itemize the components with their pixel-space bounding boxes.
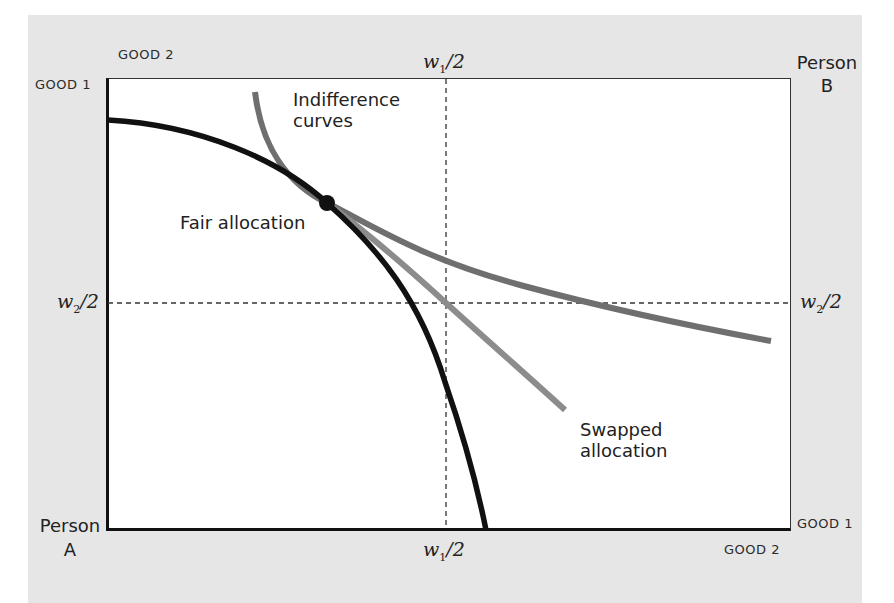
diagram-curves [0,0,894,603]
indifference-curves-label: Indifference curves [293,90,400,131]
w2-var: w [57,290,73,312]
good1-top-left-label: GOOD 1 [35,78,91,91]
person-a-label: Person A [34,517,106,559]
indifference-line1: Indifference [293,90,400,111]
fair-allocation-point [319,195,335,211]
w2-rest: /2 [80,290,99,312]
w1-var: w [423,50,439,72]
w2-var: w [800,290,816,312]
person-b-label: Person B [793,54,861,95]
person-a-indifference-curve [108,120,486,530]
indifference-line2: curves [293,111,400,132]
person-a-line1: Person [34,517,106,535]
good2-bottom-right-label: GOOD 2 [724,543,780,556]
swapped-line1: Swapped [580,420,667,441]
good2-top-left-label: GOOD 2 [118,48,174,61]
person-b-line2: B [793,77,861,95]
w1-half-top-label: w1/2 [423,52,465,75]
w2-rest: /2 [823,290,842,312]
person-b-line1: Person [793,54,861,72]
w1-rest: /2 [446,50,465,72]
w2-half-right-label: w2/2 [800,292,842,315]
good1-bottom-right-label: GOOD 1 [797,517,853,530]
swapped-allocation-label: Swapped allocation [580,420,667,461]
fair-allocation-label: Fair allocation [180,213,305,234]
w1-half-bottom-label: w1/2 [423,540,465,563]
w1-rest: /2 [446,538,465,560]
w2-half-left-label: w2/2 [57,292,99,315]
w1-var: w [423,538,439,560]
person-a-line2: A [34,541,106,559]
swapped-line2: allocation [580,441,667,462]
